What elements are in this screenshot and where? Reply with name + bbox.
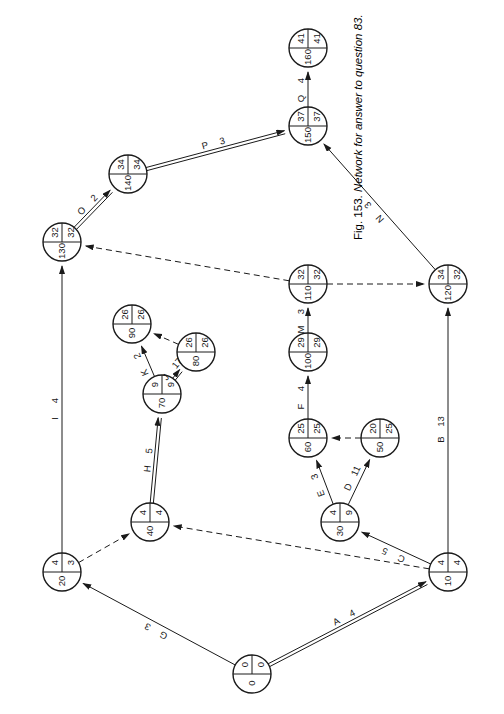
network-edge-C [362,532,431,564]
network-edge-H [150,418,161,503]
edge-label-E: E3 [308,472,327,498]
svg-text:A: A [331,615,342,628]
network-node-90[interactable]: 902626 [113,305,151,343]
node-earliest-time: 20 [367,423,378,434]
svg-text:4: 4 [295,78,306,83]
node-number: 10 [442,576,453,587]
node-earliest-time: 32 [295,269,306,280]
svg-text:P: P [200,139,209,151]
node-number: 140 [122,175,133,191]
network-node-30[interactable]: 3049 [321,503,359,541]
node-latest-time: 25 [311,423,322,434]
svg-text:N: N [373,213,386,226]
node-latest-time: 37 [311,111,322,122]
svg-text:Q: Q [295,95,306,102]
svg-text:G: G [157,629,169,642]
node-latest-time: 34 [131,159,142,170]
network-edge-P [146,131,285,171]
node-number: 110 [302,285,313,300]
node-latest-time: 41 [311,33,322,44]
node-earliest-time: 4 [49,560,60,565]
network-node-20[interactable]: 2043 [43,553,81,591]
network-node-130[interactable]: 1303232 [43,223,81,261]
node-latest-time: 32 [311,269,322,280]
network-node-40[interactable]: 4044 [131,503,169,541]
network-edge-dummy-10-40 [174,526,430,569]
svg-text:13: 13 [435,416,446,427]
node-latest-time: 25 [383,423,394,434]
network-node-80[interactable]: 802626 [177,333,215,371]
network-edge-N [324,144,435,270]
svg-text:4: 4 [49,398,60,403]
edge-label-M: M3 [295,309,306,334]
node-latest-time: 4 [153,510,164,515]
network-node-160[interactable]: 1604141 [289,29,327,67]
network-node-100[interactable]: 1002929 [289,333,327,371]
node-earliest-time: 37 [295,111,306,122]
node-number: 30 [334,526,345,537]
network-node-120[interactable]: 1203432 [429,265,467,303]
network-node-140[interactable]: 1403434 [109,155,147,193]
node-earliest-time: 4 [435,560,446,565]
node-earliest-time: 26 [183,337,194,348]
node-latest-time: 32 [451,269,462,280]
node-earliest-time: 0 [239,662,250,667]
network-edge-dummy-80-90 [154,334,179,345]
node-latest-time: 26 [135,309,146,320]
svg-text:F: F [295,403,306,409]
svg-text:D: D [341,481,354,492]
network-edge-A [268,582,427,667]
figure-page: 0001044204330494044502025602525709980262… [0,0,504,714]
edge-label-N: N3 [362,200,386,225]
network-svg: 0001044204330494044502025602525709980262… [0,0,504,714]
edge-label-F: F4 [295,386,306,410]
network-node-10[interactable]: 1044 [429,553,467,591]
svg-text:M: M [295,325,306,333]
svg-text:K: K [138,367,151,378]
svg-text:B: B [435,436,446,442]
network-node-70[interactable]: 7099 [143,375,181,413]
node-latest-time: 29 [311,337,322,348]
svg-text:4: 4 [295,386,306,391]
edge-label-D: D11 [341,464,362,493]
network-node-60[interactable]: 602525 [289,419,327,457]
node-latest-time: 32 [65,227,76,238]
figure-caption-text: Network for answer to question 83. [352,14,364,192]
node-number: 100 [302,353,313,369]
svg-text:3: 3 [295,309,306,314]
network-edge-dummy-20-40 [79,534,130,563]
edge-label-C: C5 [380,545,406,565]
node-earliest-time: 4 [327,510,338,515]
network-node-0[interactable]: 000 [233,655,271,693]
svg-text:3: 3 [143,621,153,633]
edge-label-layer: A4G3B13C5I4D11E3H5F4J17K2M3N3O2P3Q4 [49,78,446,642]
node-number: 50 [374,442,385,453]
edge-label-K: K2 [131,352,150,378]
edge-label-Q: Q4 [295,78,306,102]
node-number: 130 [56,243,67,259]
svg-text:5: 5 [143,448,154,454]
edge-label-H: H5 [141,448,154,473]
node-earliest-time: 9 [149,382,160,387]
svg-text:H: H [141,465,153,473]
node-earliest-time: 32 [49,227,60,238]
svg-text:4: 4 [347,607,357,619]
node-earliest-time: 34 [115,159,126,170]
svg-text:3: 3 [308,472,320,481]
figure-number: Fig. 153. [352,195,364,240]
network-edge-dummy-110-130 [86,246,290,281]
node-number: 0 [246,680,257,685]
network-node-50[interactable]: 502025 [361,419,399,457]
node-latest-time: 3 [65,560,76,565]
network-node-150[interactable]: 1503737 [289,107,327,145]
svg-text:2: 2 [131,352,143,361]
node-number: 120 [442,285,453,301]
svg-text:E: E [314,489,327,499]
network-node-110[interactable]: 1103232 [289,265,327,303]
node-latest-time: 0 [255,662,266,667]
node-latest-time: 4 [451,560,462,565]
svg-text:C: C [396,553,407,566]
node-earliest-time: 4 [137,510,148,515]
network-edge-G [83,583,235,665]
svg-text:3: 3 [218,135,226,147]
